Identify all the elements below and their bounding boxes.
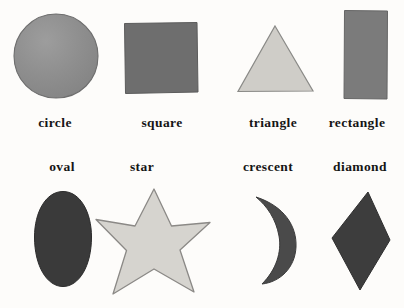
star-shape-icon xyxy=(94,186,212,298)
label-triangle: triangle xyxy=(222,116,324,130)
triangle-shape-cell xyxy=(236,24,316,94)
circle-shape-cell xyxy=(12,12,100,100)
diamond-shape-icon xyxy=(330,190,392,292)
rectangle-shape-icon xyxy=(342,8,390,102)
label-diamond: diamond xyxy=(312,160,404,174)
shapes-chart: circle square triangle rectangle oval st… xyxy=(0,0,404,308)
triangle-shape-icon xyxy=(236,24,316,94)
square-shape-icon xyxy=(122,20,200,96)
square-shape-cell xyxy=(122,20,200,96)
rectangle-shape-cell xyxy=(342,8,390,102)
diamond-shape-cell xyxy=(330,190,392,292)
oval-shape-cell xyxy=(33,190,93,288)
circle-shape-icon xyxy=(12,12,100,100)
crescent-shape-cell xyxy=(240,194,298,286)
star-shape-cell xyxy=(94,186,212,298)
oval-shape-icon xyxy=(33,190,93,288)
label-circle: circle xyxy=(0,116,110,130)
label-rectangle: rectangle xyxy=(310,116,404,130)
label-star: star xyxy=(96,160,188,174)
label-crescent: crescent xyxy=(218,160,318,174)
crescent-shape-icon xyxy=(240,194,298,286)
label-square: square xyxy=(110,116,214,130)
